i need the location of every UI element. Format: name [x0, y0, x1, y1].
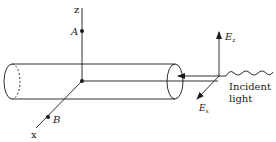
field-vectors: Ez Ex — [178, 31, 273, 114]
point-a — [80, 29, 84, 33]
incident-light-label-line1: Incident — [229, 81, 271, 92]
optical-fiber-diagram: z A x B Ez Ex Incident light — [0, 0, 276, 142]
cylinder-left-end-front — [4, 64, 12, 99]
point-b-label: B — [52, 114, 60, 125]
ex-label: Ex — [198, 103, 210, 114]
cylinder-right-end — [167, 64, 183, 99]
point-a-label: A — [70, 26, 78, 37]
cylinder — [4, 64, 183, 99]
cylinder-left-end-hidden — [12, 64, 20, 99]
x-axis-label: x — [31, 129, 37, 140]
incident-light-label-line2: light — [229, 93, 252, 104]
incident-light-wave — [219, 71, 273, 76]
point-b — [46, 115, 50, 119]
ex-arrow — [197, 76, 219, 99]
z-axis-label: z — [74, 4, 79, 15]
ez-label: Ez — [224, 31, 236, 43]
